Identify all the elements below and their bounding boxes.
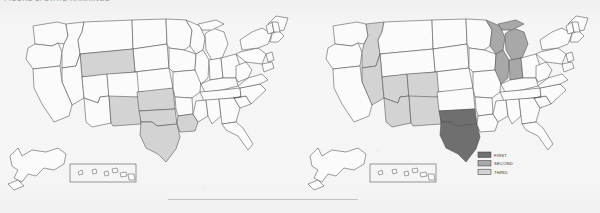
state-mi — [505, 28, 528, 60]
left-map — [0, 4, 300, 209]
state-ks — [137, 88, 175, 111]
state-nj — [266, 52, 274, 62]
state-mi — [205, 28, 228, 60]
state-al — [206, 99, 221, 124]
state-nm — [409, 96, 441, 126]
state-sd — [433, 44, 469, 72]
scanned-page: FIGURE 3. STATE RANKINGS — [0, 0, 600, 213]
state-ar — [475, 97, 493, 116]
state-mt — [78, 20, 133, 54]
state-in — [209, 58, 223, 80]
state-co — [407, 72, 439, 99]
state-md — [262, 62, 274, 72]
inset-hawaii — [70, 164, 136, 182]
state-mi-up — [498, 20, 524, 30]
state-pa — [236, 48, 266, 64]
legend-swatch-second — [478, 161, 491, 166]
state-tx — [440, 122, 480, 162]
state-fl — [522, 122, 553, 150]
inset-hawaii — [370, 164, 436, 182]
margin-rule — [168, 199, 358, 200]
state-mt — [378, 20, 433, 54]
state-fl — [222, 122, 253, 150]
state-ks — [437, 88, 475, 111]
inset-alaska — [310, 148, 366, 182]
state-or — [26, 43, 62, 69]
state-nm — [109, 96, 141, 126]
map-pair: FIRST SECOND THIRD — [0, 4, 600, 209]
right-map-svg: FIRST SECOND THIRD — [300, 4, 600, 209]
state-pa — [536, 48, 566, 64]
state-or — [326, 43, 362, 69]
left-map-states — [26, 16, 288, 162]
state-wa — [33, 22, 68, 46]
right-map-states — [326, 16, 588, 162]
rank-legend: FIRST SECOND THIRD — [478, 152, 513, 175]
left-map-svg — [0, 4, 300, 209]
state-sd — [133, 44, 169, 72]
legend-swatch-third — [478, 169, 491, 174]
bottom-margin-strip — [0, 199, 600, 202]
state-wa — [333, 22, 368, 46]
state-ia — [169, 48, 196, 72]
state-ia — [469, 48, 496, 72]
state-tx — [140, 122, 180, 162]
legend-label-first: FIRST — [494, 153, 507, 158]
state-co — [107, 72, 139, 99]
inset-alaska — [10, 148, 66, 182]
legend-label-second: SECOND — [494, 161, 513, 166]
state-nj — [566, 52, 574, 62]
right-map: FIRST SECOND THIRD — [300, 4, 600, 209]
legend-swatch-first — [478, 152, 491, 157]
state-al — [506, 99, 521, 124]
legend-label-third: THIRD — [494, 170, 508, 175]
state-mi-up — [198, 20, 224, 30]
state-ar — [175, 97, 193, 116]
state-md — [562, 62, 574, 72]
top-caption-text: FIGURE 3. STATE RANKINGS — [4, 0, 110, 2]
state-in — [509, 58, 523, 80]
